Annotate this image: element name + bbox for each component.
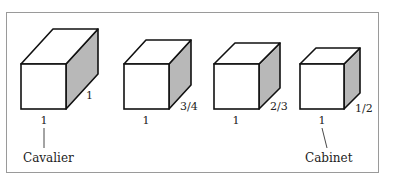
depth-ratio-label: 2/3 (270, 100, 288, 113)
cube-two-thirds: 12/3 (214, 43, 288, 127)
projection-diagram: 11Cavalier13/412/311/2Cabinet (0, 0, 394, 186)
front-width-label: 1 (143, 114, 150, 127)
front-face (214, 64, 259, 109)
front-width-label: 1 (41, 114, 48, 127)
cube-three-quarter: 13/4 (124, 40, 198, 127)
front-face (300, 64, 344, 109)
leader-line (322, 128, 327, 148)
cube-cavalier: 11Cavalier (21, 29, 98, 165)
cube-cabinet: 11/2Cabinet (300, 48, 373, 165)
front-width-label: 1 (233, 114, 240, 127)
depth-ratio-label: 1/2 (355, 102, 373, 115)
depth-ratio-label: 3/4 (180, 100, 198, 113)
depth-ratio-label: 1 (86, 89, 93, 102)
projection-caption: Cabinet (305, 151, 353, 165)
projection-caption: Cavalier (23, 151, 74, 165)
front-face (21, 64, 66, 109)
front-width-label: 1 (319, 114, 326, 127)
front-face (124, 64, 169, 109)
